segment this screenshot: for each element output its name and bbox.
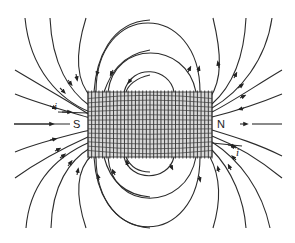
br-line-5-arrow	[218, 168, 219, 172]
bl-line-5-arrow	[77, 170, 78, 175]
bottom-loop-outer	[96, 157, 200, 227]
bl-line-2-arrow	[55, 149, 59, 151]
tl-line-5	[15, 94, 90, 118]
bottom-loop-mid-arrow	[113, 171, 115, 175]
tl-line-2	[50, 18, 90, 106]
tl-line-4	[15, 70, 90, 115]
solenoid-coil	[88, 91, 212, 159]
upper-arc-2	[104, 50, 150, 92]
solenoid-field-diagram: S N i i	[0, 0, 295, 243]
br-line-4	[212, 150, 246, 228]
tr-line-2	[212, 18, 246, 104]
tl-line-3	[78, 18, 92, 98]
tr-line-2-arrow	[234, 74, 236, 78]
br-line-4-arrow	[229, 166, 231, 170]
north-pole-label: N	[217, 118, 225, 130]
bottom-loop-inner	[124, 157, 174, 176]
br-line-3	[212, 142, 270, 228]
current-label-right: i	[236, 146, 239, 158]
bl-line-1-arrow	[50, 139, 55, 140]
bottom-loop-outer-arrow2	[199, 176, 200, 180]
br-line-1	[212, 130, 282, 156]
br-line-2	[212, 136, 282, 178]
top-loop-mid-arrow2	[188, 68, 190, 72]
upper-arc-3	[126, 75, 150, 92]
top-loop-outer	[96, 23, 200, 92]
bl-line-5	[79, 155, 92, 228]
tl-line-1-arrow	[60, 88, 64, 92]
tr-line-5-arrow	[240, 108, 244, 109]
south-pole-label: S	[73, 118, 80, 130]
tr-line-1-arrow	[218, 63, 219, 68]
tr-line-5	[212, 94, 282, 117]
current-label-left: i	[54, 100, 57, 112]
br-line-5	[210, 157, 219, 228]
tr-line-1	[210, 18, 219, 98]
bl-line-4	[51, 148, 90, 228]
lower-arc-3	[126, 157, 150, 172]
top-loop-outer-arrow2	[198, 68, 199, 72]
tr-line-4-arrow	[240, 96, 244, 98]
bottom-loop-mid	[108, 157, 196, 198]
top-loop-mid	[108, 53, 196, 92]
tl-line-3-arrow	[76, 74, 77, 79]
